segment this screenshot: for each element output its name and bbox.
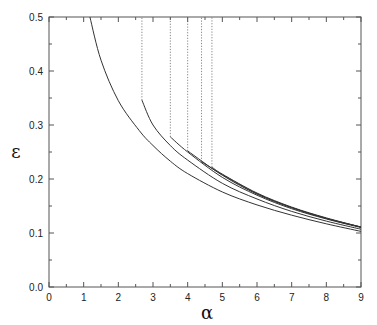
y-tick-label: 0.0 [29,282,43,293]
series-curve-5 [202,162,361,227]
x-axis-label: α [201,302,213,323]
series-curve-4 [188,151,361,227]
x-tick-label: 1 [81,292,87,303]
y-axis-label: ε [11,141,20,162]
x-tick-label: 3 [150,292,156,303]
x-tick-label: 4 [185,292,191,303]
y-tick-label: 0.4 [29,66,43,77]
y-tick-label: 0.5 [29,12,43,23]
y-tick-label: 0.3 [29,120,43,131]
x-tick-label: 2 [116,292,122,303]
y-tick-label: 0.1 [29,228,43,239]
x-tick-label: 9 [358,292,364,303]
y-tick-label: 0.2 [29,174,43,185]
x-tick-label: 5 [220,292,226,303]
x-tick-label: 0 [46,292,52,303]
series-curve-1 [90,17,361,231]
x-tick-label: 8 [324,292,330,303]
x-tick-label: 6 [254,292,260,303]
chart: 01234567890.00.10.20.30.40.5αε [0,0,377,325]
plot-area: 01234567890.00.10.20.30.40.5αε [0,0,377,325]
plot-frame [49,17,361,287]
x-tick-label: 7 [289,292,295,303]
series-curve-3 [170,137,361,228]
